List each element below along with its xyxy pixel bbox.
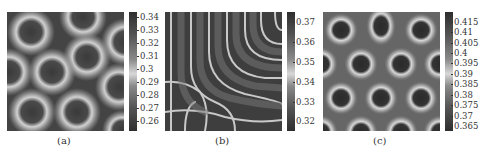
pattern-image-a (7, 12, 124, 131)
caption-b: (b) (215, 135, 229, 146)
caption-a: (a) (57, 135, 71, 146)
colorbar-a (129, 12, 137, 131)
colorbar-tick: 0.38 (454, 91, 473, 100)
colorbar-tick: 0.3 (140, 65, 154, 74)
colorbar-tick: 0.33 (140, 26, 159, 35)
colorbar-tick: 0.41 (454, 28, 473, 37)
panel-b: 0.37 0.36 0.35 0.34 0.33 0.32 (b) (158, 0, 321, 158)
colorbar-tick: 0.31 (140, 52, 159, 61)
colorbar-tick: 0.36 (296, 38, 315, 47)
colorbar-tick: 0.29 (140, 78, 159, 87)
colorbar-tick: 0.385 (454, 80, 478, 89)
colorbar-tick: 0.37 (454, 112, 473, 121)
colorbar-tick: 0.375 (454, 101, 478, 110)
pattern-image-c (323, 12, 440, 131)
colorbar-c (445, 12, 453, 131)
panel-c: 0.415 0.41 0.405 0.4 0.395 0.39 0.385 0.… (316, 0, 489, 158)
colorbar-tick: 0.4 (454, 49, 468, 58)
colorbar-tick: 0.32 (140, 39, 159, 48)
colorbar-tick: 0.27 (140, 104, 159, 113)
colorbar-tick: 0.26 (140, 117, 159, 126)
colorbar-tick: 0.28 (140, 91, 159, 100)
colorbar-tick: 0.34 (296, 78, 315, 87)
panel-a: 0.34 0.33 0.32 0.31 0.3 0.29 0.28 0.27 0… (0, 0, 163, 158)
colorbar-tick: 0.405 (454, 39, 478, 48)
colorbar-tick: 0.39 (454, 70, 473, 79)
colorbar-tick: 0.34 (140, 13, 159, 22)
caption-c: (c) (373, 135, 386, 146)
colorbar-b (287, 12, 295, 131)
colorbar-tick: 0.415 (454, 18, 478, 27)
colorbar-tick: 0.35 (296, 58, 315, 67)
pattern-image-b (165, 12, 282, 131)
colorbar-tick: 0.32 (296, 117, 315, 126)
colorbar-tick: 0.395 (454, 59, 478, 68)
colorbar-tick: 0.33 (296, 98, 315, 107)
colorbar-tick: 0.365 (454, 122, 478, 131)
colorbar-tick: 0.37 (296, 18, 315, 27)
